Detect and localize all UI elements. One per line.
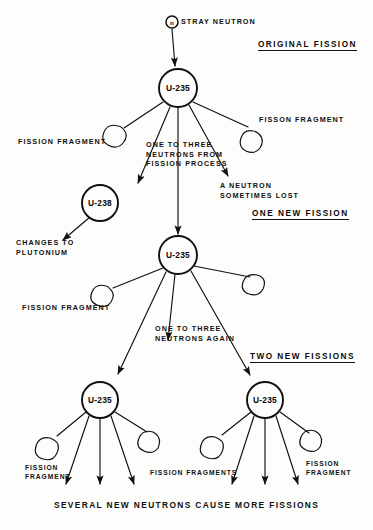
fission-fragment-blob: [240, 131, 262, 153]
diagram-caption: SEVERAL NEW NEUTRONS CAUSE MORE FISSIONS: [54, 500, 319, 510]
label-fisson-fragment-top-right: FISSON FRAGMENT: [259, 115, 344, 125]
label-fission-fragment-top-left: FISSION FRAGMENT: [18, 137, 106, 147]
edge-stray-neutron-to-u235-top: [172, 29, 175, 66]
heading-two-new-fissions: TWO NEW FISSIONS: [250, 352, 355, 363]
fission-fragment-blob: [138, 431, 160, 452]
diagram-canvas: [0, 0, 373, 530]
label-one-to-three-neutrons-again: ONE TO THREE NEUTRONS AGAIN: [155, 324, 235, 343]
label-fission-fragment-mid-left: FISSION FRAGMENT: [22, 303, 110, 313]
nucleus-label-u235-top: U-235: [166, 83, 190, 93]
label-a-neutron-sometimes-lost: A NEUTRON SOMETIMES LOST: [220, 181, 299, 200]
label-fission-fragment-bottom-left: FISSION FRAGMENT: [25, 464, 71, 482]
stray-neutron-label: STRAY NEUTRON: [181, 17, 256, 27]
heading-original-fission: ORIGINAL FISSION: [258, 40, 357, 51]
label-one-to-three-neutrons: ONE TO THREE NEUTRONS FROM FISSION PROCE…: [146, 140, 228, 169]
edges-u235-bottom-left: [57, 412, 147, 484]
stray-neutron-symbol: n: [170, 19, 174, 26]
fission-fragment-blob: [300, 430, 322, 451]
edges-u235-second: [113, 266, 250, 375]
fission-fragment-blob: [35, 438, 58, 460]
heading-one-new-fission: ONE NEW FISSION: [252, 209, 349, 220]
nucleus-label-u235-bottom-right: U-235: [253, 395, 277, 405]
fission-fragment-blob: [200, 437, 223, 459]
label-fission-fragments-center: FISSION FRAGMENTS: [150, 469, 237, 478]
nucleus-label-u235-second: U-235: [166, 250, 190, 260]
edges-u238: [63, 217, 90, 240]
fission-chain-reaction-diagram: U-235 U-238 U-235 U-235 U-235 n STRAY NE…: [0, 0, 373, 530]
nucleus-label-u238-left: U-238: [88, 198, 112, 208]
fission-fragment-blob: [242, 275, 264, 295]
nucleus-label-u235-bottom-left: U-235: [88, 395, 112, 405]
label-fission-fragment-bottom-right: FISSION FRAGMENT: [306, 460, 352, 478]
label-changes-to-plutonium: CHANGES TO PLUTONIUM: [16, 238, 74, 257]
